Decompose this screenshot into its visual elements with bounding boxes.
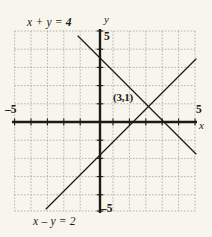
- equation-label-x-plus-y: x + y = 4: [27, 17, 72, 29]
- equation-top-rhs: 4: [66, 16, 72, 28]
- graph-figure: x + y = 4 x – y = 2 y x 5 –5 –5 5 (3,1): [0, 0, 212, 237]
- y-axis-tick-label-5: 5: [104, 31, 110, 43]
- x-axis-tick-label-5: 5: [196, 104, 202, 116]
- y-axis-label: y: [104, 14, 109, 25]
- intersection-point-label: (3,1): [113, 92, 133, 103]
- y-axis-tick-label-minus-5: –5: [101, 203, 113, 215]
- x-axis-label: x: [199, 120, 204, 131]
- equation-label-x-minus-y: x – y = 2: [33, 216, 76, 228]
- equation-top-lhs: x + y =: [27, 16, 66, 28]
- x-axis-tick-label-minus-5: –5: [5, 104, 17, 116]
- line-x-minus-y-equals-2: [46, 59, 196, 209]
